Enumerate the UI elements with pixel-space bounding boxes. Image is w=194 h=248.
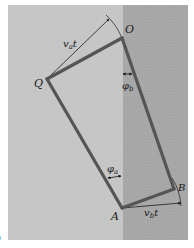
label-o: O: [125, 23, 134, 36]
label-b: B: [177, 182, 185, 193]
label-a: A: [110, 210, 119, 223]
wavefront-diagram: vat O Q φb φa B A vbt ): [0, 0, 194, 248]
label-q: Q: [34, 77, 43, 90]
partial-caption-paren: ): [0, 233, 1, 244]
